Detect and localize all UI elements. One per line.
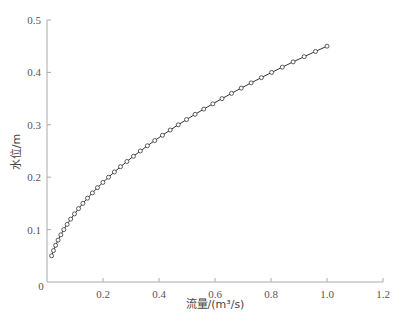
data-point-marker <box>69 217 73 221</box>
data-point-marker <box>50 254 54 258</box>
y-tick-label: 0.3 <box>27 119 41 131</box>
data-point-marker <box>153 139 157 143</box>
data-point-marker <box>90 191 94 195</box>
data-point-marker <box>259 76 263 80</box>
data-point-marker <box>62 228 66 232</box>
data-point-marker <box>72 212 76 216</box>
data-point-marker <box>176 123 180 127</box>
data-point-marker <box>249 81 253 85</box>
x-axis-label: 流量/(m³/s) <box>186 297 245 311</box>
y-tick-label: 0.4 <box>27 66 41 78</box>
data-point-marker <box>239 86 243 90</box>
data-point-marker <box>145 144 149 148</box>
data-point-marker <box>325 44 329 48</box>
data-point-marker <box>81 201 85 205</box>
data-point-marker <box>193 112 197 116</box>
data-point-marker <box>184 118 188 122</box>
chart: 00.20.40.60.81.01.20.10.20.30.40.5 流量/(m… <box>0 0 402 325</box>
data-point-marker <box>101 180 105 184</box>
data-point-marker <box>125 159 129 163</box>
data-point-marker <box>230 91 234 95</box>
x-tick-label: 1.2 <box>376 288 390 300</box>
data-point-marker <box>65 222 69 226</box>
x-tick-label: 0.2 <box>96 288 110 300</box>
data-point-marker <box>86 196 90 200</box>
data-point-marker <box>131 154 135 158</box>
data-point-marker <box>160 133 164 137</box>
data-point-marker <box>211 102 215 106</box>
data-point-marker <box>291 60 295 64</box>
data-point-marker <box>95 186 99 190</box>
data-point-marker <box>302 55 306 59</box>
data-point-marker <box>280 65 284 69</box>
data-point-marker <box>270 70 274 74</box>
data-point-marker <box>112 170 116 174</box>
x-tick-label: 0.4 <box>152 288 166 300</box>
axes: 00.20.40.60.81.01.20.10.20.30.40.5 <box>27 14 390 300</box>
data-point-marker <box>168 128 172 132</box>
x-tick-label: 1.0 <box>320 288 334 300</box>
data-point-marker <box>313 49 317 53</box>
x-tick-label: 0 <box>38 280 44 292</box>
y-tick-label: 0.5 <box>27 14 41 26</box>
y-tick-label: 0.2 <box>27 171 41 183</box>
data-point-marker <box>138 149 142 153</box>
data-point-marker <box>56 238 60 242</box>
data-point-marker <box>59 233 63 237</box>
data-point-marker <box>220 97 224 101</box>
y-axis-label: 水位/m <box>9 134 23 170</box>
data-point-marker <box>202 107 206 111</box>
data-point-marker <box>77 207 81 211</box>
y-tick-label: 0.1 <box>27 224 41 236</box>
data-point-marker <box>106 175 110 179</box>
data-series <box>50 44 329 258</box>
series-line <box>52 46 327 256</box>
data-point-marker <box>54 243 58 247</box>
data-point-marker <box>51 249 55 253</box>
x-tick-label: 0.8 <box>264 288 278 300</box>
data-point-marker <box>118 165 122 169</box>
